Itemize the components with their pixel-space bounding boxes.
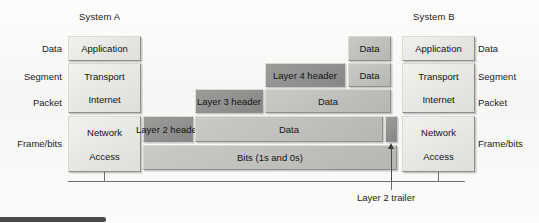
encap-layer3-data[interactable]: Data (265, 89, 391, 113)
baseline-rule (68, 181, 465, 182)
caption-bar (0, 217, 106, 222)
encapsulation-diagram: System A System B Data Segment Packet Fr… (0, 0, 539, 223)
trailer-arrow-shaft (391, 148, 392, 181)
trailer-callout-tick (391, 181, 392, 190)
right-stack-application[interactable]: Application (402, 36, 475, 61)
right-stack-tick (438, 172, 439, 181)
right-stack-transport-internet[interactable]: Transport Internet (402, 63, 475, 113)
left-label-packet: Packet (0, 97, 62, 108)
right-label-segment: Segment (478, 71, 538, 82)
right-label-frame-bits: Frame/bits (478, 138, 538, 149)
left-stack-access: Access (69, 151, 140, 162)
left-stack-network: Network (69, 127, 140, 138)
left-stack-transport-internet[interactable]: Transport Internet (68, 63, 141, 113)
left-stack-network-access[interactable]: Network Access (68, 116, 141, 172)
encap-layer2-data[interactable]: Data (195, 116, 383, 142)
encap-application-data[interactable]: Data (348, 36, 391, 61)
right-stack-access: Access (403, 151, 474, 162)
left-stack-application[interactable]: Application (68, 36, 141, 61)
trailer-arrow-head-icon (388, 143, 394, 149)
encap-layer3-header[interactable]: Layer 3 header (195, 89, 263, 113)
left-stack-internet: Internet (69, 94, 140, 105)
encap-bits[interactable]: Bits (1s and 0s) (143, 145, 397, 170)
encap-layer2-header[interactable]: Layer 2 header (143, 116, 193, 142)
system-a-title: System A (79, 11, 120, 22)
encap-layer4-header[interactable]: Layer 4 header (265, 63, 345, 87)
right-label-packet: Packet (478, 97, 538, 108)
left-stack-transport: Transport (69, 71, 140, 82)
right-label-data: Data (478, 43, 538, 54)
right-stack-internet: Internet (403, 94, 474, 105)
left-label-segment: Segment (0, 71, 62, 82)
right-stack-network: Network (403, 127, 474, 138)
left-label-data: Data (0, 43, 62, 54)
right-stack-network-access[interactable]: Network Access (402, 116, 475, 172)
system-b-title: System B (413, 11, 455, 22)
left-label-frame-bits: Frame/bits (0, 138, 62, 149)
encap-layer2-trailer[interactable] (385, 116, 397, 142)
right-stack-transport: Transport (403, 71, 474, 82)
left-stack-tick (104, 172, 105, 181)
encap-layer4-data[interactable]: Data (348, 63, 391, 87)
layer2-trailer-callout: Layer 2 trailer (357, 192, 415, 203)
